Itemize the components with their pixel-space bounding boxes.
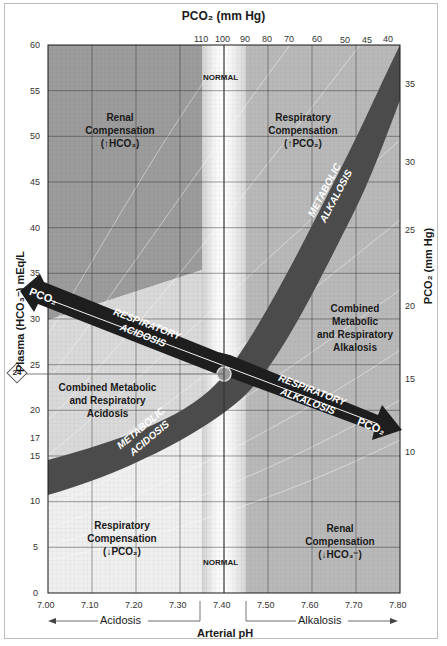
acid-base-nomogram (0, 0, 447, 646)
highlight-24-diamond (7, 363, 27, 383)
